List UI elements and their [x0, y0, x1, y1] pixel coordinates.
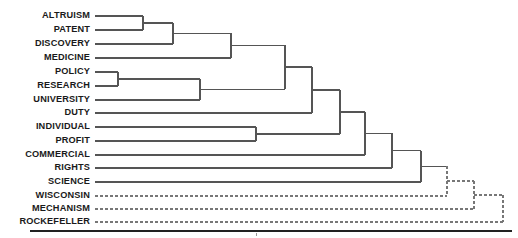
leaf-label-individual: INDIVIDUAL — [0, 122, 90, 131]
leaf-line-group — [95, 16, 503, 222]
leaf-label-commercial: COMMERCIAL — [0, 150, 90, 159]
merge-link-group — [118, 16, 503, 222]
dendrogram-figure: ALTRUISMPATENTDISCOVERYMEDICINEPOLICYRES… — [0, 0, 518, 238]
leaf-label-rights: RIGHTS — [0, 163, 90, 172]
leaf-label-policy: POLICY — [0, 67, 90, 76]
dendrogram-canvas — [0, 0, 518, 238]
leaf-label-university: UNIVERSITY — [0, 95, 90, 104]
bottom-axis — [30, 231, 512, 236]
leaf-label-altruism: ALTRUISM — [0, 11, 90, 20]
leaf-label-patent: PATENT — [0, 25, 90, 34]
leaf-label-science: SCIENCE — [0, 177, 90, 186]
leaf-label-mechanism: MECHANISM — [0, 204, 90, 213]
leaf-label-medicine: MEDICINE — [0, 53, 90, 62]
leaf-label-profit: PROFIT — [0, 136, 90, 145]
leaf-label-discovery: DISCOVERY — [0, 39, 90, 48]
leaf-label-rockefeller: ROCKEFELLER — [0, 217, 90, 226]
leaf-label-duty: DUTY — [0, 108, 90, 117]
leaf-label-research: RESEARCH — [0, 81, 90, 90]
leaf-label-wisconsin: WISCONSIN — [0, 191, 90, 200]
